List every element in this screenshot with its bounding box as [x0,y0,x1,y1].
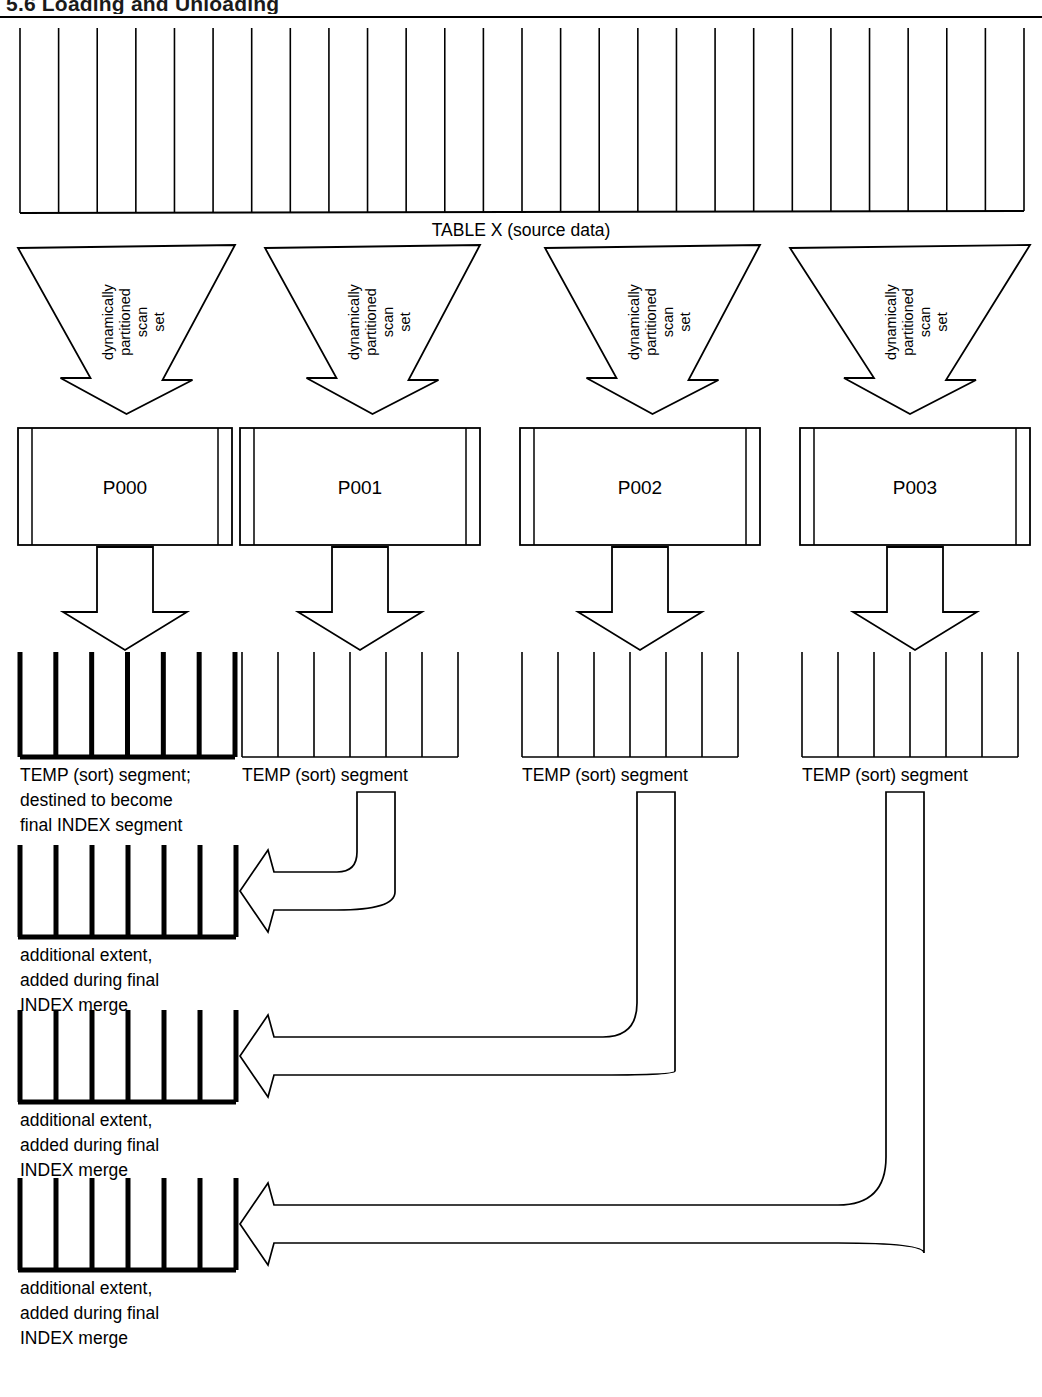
funnel-caption-line: dynamically [626,283,642,359]
merge-arrow [298,547,422,650]
process-boxes: P000P001P002P003 [18,428,1030,545]
funnel-caption-line: partitioned [900,288,916,356]
extent-2: additional extent,added during finalINDE… [18,1178,236,1348]
merge-arrows [63,547,977,650]
funnel-caption-line: scan [380,307,396,338]
process-p002: P002 [520,428,760,545]
temp-segment-label-line: final INDEX segment [20,815,183,835]
extent-label-line: additional extent, [20,1278,152,1298]
funnel-caption-line: dynamically [100,283,116,359]
extent-blocks: additional extent,added during finalINDE… [18,845,236,1348]
extent-label-line: INDEX merge [20,1328,128,1348]
curve-p003-to-extent-2 [240,792,924,1265]
funnel-1: dynamicallypartitionedscanset [265,245,480,414]
extent-label-line: added during final [20,1135,159,1155]
funnel-caption-line: partitioned [117,288,133,356]
merge-arrow [63,547,187,650]
extent-label-line: additional extent, [20,1110,152,1130]
extent-1: additional extent,added during finalINDE… [18,1010,236,1180]
funnel-caption-line: set [397,312,413,331]
curve-p002-to-extent-1 [240,792,675,1097]
process-box-label: P002 [618,477,662,498]
process-box-label: P003 [893,477,937,498]
curved-connectors [240,792,924,1265]
funnel-caption-line: set [151,312,167,331]
process-p001: P001 [240,428,480,545]
funnel-caption-line: scan [660,307,676,338]
process-p000: P000 [18,428,232,545]
temp-segment-2: TEMP (sort) segment [522,652,738,785]
temp-segments: TEMP (sort) segment;destined to becomefi… [20,652,1018,835]
funnel-caption-line: partitioned [643,288,659,356]
extent-label-line: additional extent, [20,945,152,965]
funnel-caption-line: set [934,312,950,331]
source-data-label: TABLE X (source data) [432,220,611,240]
funnel-caption-line: scan [917,307,933,338]
extent-label-line: added during final [20,1303,159,1323]
funnel-caption-line: set [677,312,693,331]
extent-label-line: INDEX merge [20,1160,128,1180]
parallel-index-build-diagram: TABLE X (source data) dynamicallypartiti… [0,0,1042,1397]
funnel-caption-line: dynamically [883,283,899,359]
scan-funnels: dynamicallypartitionedscansetdynamically… [18,245,1030,414]
funnel-2: dynamicallypartitionedscanset [545,245,760,414]
process-box-label: P001 [338,477,382,498]
extent-0: additional extent,added during finalINDE… [18,845,236,1015]
funnel-caption-line: scan [134,307,150,338]
extent-label-line: INDEX merge [20,995,128,1015]
curve-p001-to-extent-0 [240,792,395,932]
source-data-dividers [20,28,1024,213]
funnel-3: dynamicallypartitionedscanset [790,245,1030,414]
process-p003: P003 [800,428,1030,545]
funnel-caption-line: dynamically [346,283,362,359]
extent-label-line: added during final [20,970,159,990]
temp-segment-3: TEMP (sort) segment [802,652,1018,785]
temp-segment-label-line: destined to become [20,790,173,810]
temp-segment-0: TEMP (sort) segment;destined to becomefi… [20,652,235,835]
process-box-label: P000 [103,477,147,498]
merge-arrow [853,547,977,650]
funnel-0: dynamicallypartitionedscanset [18,245,235,414]
temp-segment-1: TEMP (sort) segment [242,652,458,785]
merge-arrow [578,547,702,650]
funnel-caption-line: partitioned [363,288,379,356]
temp-segment-label-line: TEMP (sort) segment [522,765,688,785]
temp-segment-label-line: TEMP (sort) segment [802,765,968,785]
temp-segment-label-line: TEMP (sort) segment; [20,765,191,785]
temp-segment-label-line: TEMP (sort) segment [242,765,408,785]
